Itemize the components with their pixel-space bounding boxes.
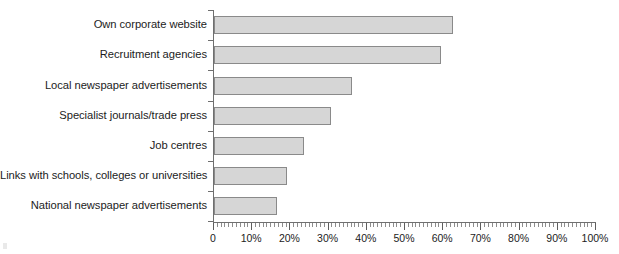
x-axis-minor-tick xyxy=(247,223,248,227)
x-axis-minor-tick xyxy=(484,223,485,227)
x-axis-minor-tick xyxy=(312,223,313,227)
x-axis-minor-tick xyxy=(587,223,588,227)
x-axis-minor-tick xyxy=(381,223,382,227)
x-axis-tick-label-7: 70% xyxy=(470,232,491,244)
x-axis-minor-tick xyxy=(259,223,260,227)
x-axis-minor-tick xyxy=(496,223,497,227)
x-axis-minor-tick xyxy=(316,223,317,227)
x-axis-minor-tick xyxy=(549,223,550,227)
category-label-2: Local newspaper advertisements xyxy=(0,79,207,92)
x-axis-major-tick xyxy=(328,223,329,230)
x-axis-minor-tick xyxy=(282,223,283,227)
x-axis-minor-tick xyxy=(373,223,374,227)
x-axis-minor-tick xyxy=(423,223,424,227)
y-axis-tick xyxy=(208,131,213,132)
x-axis-minor-tick xyxy=(538,223,539,227)
x-axis-major-tick xyxy=(442,223,443,230)
x-axis-minor-tick xyxy=(438,223,439,227)
y-axis-tick xyxy=(208,10,213,11)
x-axis-minor-tick xyxy=(320,223,321,227)
x-axis-minor-tick xyxy=(572,223,573,227)
bar-3 xyxy=(214,107,331,125)
x-axis-minor-tick xyxy=(358,223,359,227)
x-axis-minor-tick xyxy=(545,223,546,227)
x-axis-minor-tick xyxy=(335,223,336,227)
x-axis-minor-tick xyxy=(473,223,474,227)
x-axis-minor-tick xyxy=(393,223,394,227)
category-label-3: Specialist journals/trade press xyxy=(0,109,207,122)
x-axis-minor-tick xyxy=(297,223,298,227)
category-label-1: Recruitment agencies xyxy=(0,48,207,61)
x-axis-tick-label-9: 90% xyxy=(546,232,567,244)
x-axis-minor-tick xyxy=(274,223,275,227)
x-axis-major-tick xyxy=(366,223,367,230)
x-axis-minor-tick xyxy=(339,223,340,227)
x-axis-minor-tick xyxy=(347,223,348,227)
x-axis-tick-label-6: 60% xyxy=(432,232,453,244)
x-axis-minor-tick xyxy=(305,223,306,227)
x-axis-minor-tick xyxy=(564,223,565,227)
bar-chart: Own corporate websiteRecruitment agencie… xyxy=(0,0,619,254)
x-axis-minor-tick xyxy=(454,223,455,227)
x-axis-tick-label-3: 30% xyxy=(317,232,338,244)
x-axis-tick-label-4: 40% xyxy=(355,232,376,244)
bar-1 xyxy=(214,46,441,64)
bar-0 xyxy=(214,16,453,34)
x-axis-minor-tick xyxy=(435,223,436,227)
x-axis-minor-tick xyxy=(389,223,390,227)
x-axis-minor-tick xyxy=(568,223,569,227)
x-axis-tick-label-2: 20% xyxy=(279,232,300,244)
x-axis-tick-label-10: 100% xyxy=(582,232,609,244)
x-axis-minor-tick xyxy=(534,223,535,227)
x-axis-major-tick xyxy=(289,223,290,230)
x-axis-major-tick xyxy=(404,223,405,230)
x-axis-major-tick xyxy=(480,223,481,230)
x-axis-minor-tick xyxy=(492,223,493,227)
y-axis-tick xyxy=(208,70,213,71)
x-axis-minor-tick xyxy=(255,223,256,227)
x-axis-minor-tick xyxy=(584,223,585,227)
category-label-5: Links with schools, colleges or universi… xyxy=(0,169,207,182)
x-axis-minor-tick xyxy=(278,223,279,227)
x-axis-minor-tick xyxy=(362,223,363,227)
x-axis-minor-tick xyxy=(385,223,386,227)
x-axis-minor-tick xyxy=(370,223,371,227)
x-axis-minor-tick xyxy=(580,223,581,227)
x-axis-minor-tick xyxy=(419,223,420,227)
x-axis-minor-tick xyxy=(576,223,577,227)
x-axis-minor-tick xyxy=(465,223,466,227)
x-axis-tick-label-0: 0 xyxy=(210,232,216,244)
x-axis-tick-label-8: 80% xyxy=(508,232,529,244)
x-axis-minor-tick xyxy=(224,223,225,227)
x-axis-minor-tick xyxy=(351,223,352,227)
x-axis-minor-tick xyxy=(396,223,397,227)
plot-area: 010%20%30%40%50%60%70%80%90%100% xyxy=(213,10,595,222)
y-axis-tick xyxy=(208,221,213,222)
x-axis-minor-tick xyxy=(400,223,401,227)
bar-2 xyxy=(214,77,352,95)
x-axis-minor-tick xyxy=(553,223,554,227)
x-axis-major-tick xyxy=(251,223,252,230)
x-axis-minor-tick xyxy=(507,223,508,227)
x-axis-minor-tick xyxy=(446,223,447,227)
x-axis-minor-tick xyxy=(530,223,531,227)
x-axis-minor-tick xyxy=(488,223,489,227)
x-axis-minor-tick xyxy=(561,223,562,227)
x-axis-minor-tick xyxy=(309,223,310,227)
x-axis-minor-tick xyxy=(522,223,523,227)
x-axis-minor-tick xyxy=(228,223,229,227)
x-axis-minor-tick xyxy=(293,223,294,227)
x-axis-minor-tick xyxy=(324,223,325,227)
x-axis-minor-tick xyxy=(526,223,527,227)
bar-6 xyxy=(214,197,277,215)
x-axis-minor-tick xyxy=(217,223,218,227)
x-axis-minor-tick xyxy=(286,223,287,227)
y-axis-tick xyxy=(208,40,213,41)
x-axis-minor-tick xyxy=(469,223,470,227)
category-label-6: National newspaper advertisements xyxy=(0,199,207,212)
y-axis-tick xyxy=(208,191,213,192)
x-axis-minor-tick xyxy=(331,223,332,227)
y-axis-tick xyxy=(208,161,213,162)
category-label-4: Job centres xyxy=(0,139,207,152)
x-axis-minor-tick xyxy=(461,223,462,227)
